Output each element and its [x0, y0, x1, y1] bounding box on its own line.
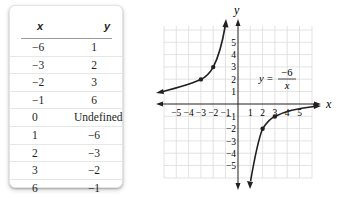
y-axis-label: y — [233, 3, 240, 17]
svg-text:1: 1 — [231, 87, 236, 97]
table-row: −23 — [10, 74, 122, 92]
svg-text:−6: −6 — [281, 67, 292, 78]
table-row: 6−1 — [10, 180, 122, 197]
point-marker — [260, 127, 264, 131]
values-table: x y −61 −32 −23 −16 0Undefined 1−6 2−3 3… — [9, 5, 123, 188]
x-axis-label: x — [325, 97, 332, 111]
cell-x: 6 — [32, 182, 62, 194]
svg-text:−5: −5 — [171, 108, 181, 118]
function-graph: x y −5 −4 −3 −2 −1 1 2 3 4 5 1 2 3 4 5 −… — [150, 0, 345, 202]
point-marker — [273, 114, 277, 118]
cell-y: 2 — [74, 59, 114, 71]
cell-x: −6 — [32, 41, 62, 53]
svg-text:−5: −5 — [226, 161, 236, 171]
cell-x: 0 — [32, 111, 62, 123]
cell-x: 2 — [32, 147, 62, 159]
cell-y: 1 — [74, 41, 114, 53]
cell-x: −3 — [32, 59, 62, 71]
table-header: x y — [10, 20, 122, 36]
cell-x: −2 — [32, 76, 62, 88]
table-row: −61 — [10, 39, 122, 57]
cell-x: −1 — [32, 94, 62, 106]
table-body: −61 −32 −23 −16 0Undefined 1−6 2−3 3−2 6… — [10, 39, 122, 196]
cell-y: −2 — [74, 164, 114, 176]
svg-text:2: 2 — [260, 108, 265, 118]
svg-text:x: x — [284, 80, 290, 91]
table-row: −16 — [10, 92, 122, 110]
cell-x: 3 — [32, 164, 62, 176]
table-row: 3−2 — [10, 162, 122, 180]
table-row: 1−6 — [10, 127, 122, 145]
cell-y: −1 — [74, 182, 114, 194]
svg-text:−1: −1 — [226, 112, 236, 122]
graph-svg: x y −5 −4 −3 −2 −1 1 2 3 4 5 1 2 3 4 5 −… — [150, 0, 345, 202]
svg-text:1: 1 — [248, 108, 253, 118]
svg-text:−2: −2 — [208, 108, 218, 118]
header-y: y — [104, 20, 110, 32]
svg-text:3: 3 — [231, 62, 236, 72]
svg-text:y =: y = — [258, 73, 273, 84]
cell-y: −6 — [74, 129, 114, 141]
svg-text:−4: −4 — [184, 108, 194, 118]
table-row: −32 — [10, 57, 122, 75]
cell-y: −3 — [74, 147, 114, 159]
cell-y: 6 — [74, 94, 114, 106]
point-marker — [199, 77, 203, 81]
cell-y: 3 — [74, 76, 114, 88]
svg-text:−3: −3 — [196, 108, 206, 118]
svg-text:5: 5 — [231, 38, 236, 48]
header-x: x — [37, 20, 43, 32]
cell-y: Undefined — [74, 111, 114, 123]
svg-text:2: 2 — [231, 75, 236, 85]
table-row: 0Undefined — [10, 109, 122, 127]
svg-text:−4: −4 — [226, 149, 236, 159]
svg-text:4: 4 — [285, 108, 290, 118]
svg-text:4: 4 — [231, 50, 236, 60]
svg-text:−3: −3 — [226, 137, 236, 147]
table-row: 2−3 — [10, 145, 122, 163]
point-marker — [211, 65, 215, 69]
cell-x: 1 — [32, 129, 62, 141]
svg-text:−2: −2 — [226, 124, 236, 134]
